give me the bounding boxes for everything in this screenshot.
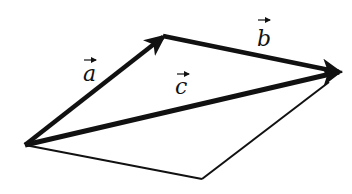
- label-c-text: c: [175, 74, 187, 99]
- label-b-text: b: [257, 26, 271, 51]
- label-a: a: [83, 60, 96, 86]
- edge-o-to-d: [25, 145, 202, 179]
- label-b: b: [257, 20, 271, 51]
- vector-b-arrow: [163, 36, 339, 72]
- edge-d-to-b: [202, 82, 329, 179]
- label-c: c: [175, 74, 189, 99]
- vector-parallelogram-diagram: a b c: [0, 0, 352, 194]
- label-a-text: a: [83, 61, 96, 86]
